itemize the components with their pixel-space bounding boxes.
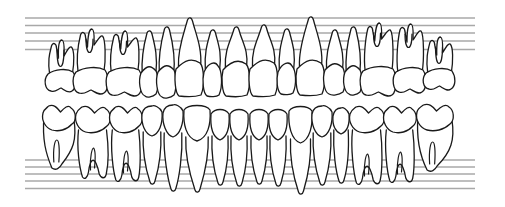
lower-tooth-17[interactable] [417,104,454,171]
tooth-crown [360,67,396,97]
upper-tooth-5[interactable] [157,27,176,98]
tooth-crown [350,106,385,132]
tooth-root [364,23,393,71]
upper-tooth-1[interactable] [45,40,76,92]
tooth-root [270,136,286,186]
tooth-crown [73,68,108,95]
tooth-crown [45,70,76,93]
tooth-crown [140,67,158,97]
tooth-crown [269,110,287,141]
tooth-crown [157,66,176,98]
tooth-crown [211,110,229,141]
tooth-root [290,139,310,194]
tooth-root [334,130,349,183]
tooth-crown [222,61,250,97]
tooth-crown [296,60,325,96]
tooth-crown [344,66,362,95]
lower-tooth-18[interactable] [384,106,417,182]
upper-tooth-14[interactable] [360,23,396,96]
tooth-crown [230,110,248,141]
tooth-root [397,24,423,72]
tooth-crown [289,107,312,144]
upper-tooth-15[interactable] [393,24,426,93]
upper-tooth-2[interactable] [73,29,108,94]
tooth-crown [106,68,142,97]
tooth-root [164,133,182,191]
tooth-crown [393,68,426,94]
tooth-crown [312,106,332,137]
upper-tooth-13[interactable] [344,27,362,95]
tooth-crown [142,106,162,136]
tooth-root [231,136,247,186]
tooth-crown [423,69,455,91]
tooth-crown [184,106,210,142]
tooth-crown [203,63,222,97]
tooth-crown [250,110,268,141]
tooth-root [251,136,267,184]
tooth-crown [333,108,349,134]
lower-tooth-21[interactable] [312,106,332,185]
tooth-root [49,40,74,74]
lower-tooth-20[interactable] [333,108,349,183]
tooth-root [313,133,331,185]
tooth-root [143,132,161,184]
tooth-crown [110,106,143,132]
tooth-crown [277,63,296,95]
upper-tooth-10[interactable] [277,29,296,95]
lower-tooth-29[interactable] [142,106,162,184]
tooth-crown [175,60,204,97]
lower-tooth-27[interactable] [184,106,210,193]
lower-tooth-30[interactable] [110,106,143,181]
lower-tooth-28[interactable] [163,105,183,191]
upper-tooth-12[interactable] [324,30,345,95]
tooth-root [212,136,228,185]
upper-tooth-16[interactable] [423,37,455,90]
tooth-crown [76,106,111,132]
tooth-crown [249,60,278,97]
tooth-crown [384,106,417,132]
upper-tooth-7[interactable] [203,30,222,97]
tooth-root [78,130,108,178]
tooth-crown [163,105,183,137]
upper-tooth-9[interactable] [249,25,278,97]
dental-chart [0,0,505,207]
lower-tooth-19[interactable] [350,106,385,184]
upper-arch [45,17,455,98]
upper-tooth-8[interactable] [222,27,250,97]
upper-tooth-6[interactable] [175,18,204,97]
tooth-root [299,17,321,66]
upper-tooth-11[interactable] [296,17,325,96]
tooth-root [427,37,453,73]
tooth-crown [324,64,345,95]
tooth-root [352,130,382,184]
lower-tooth-24[interactable] [250,110,268,185]
tooth-root [186,137,209,192]
